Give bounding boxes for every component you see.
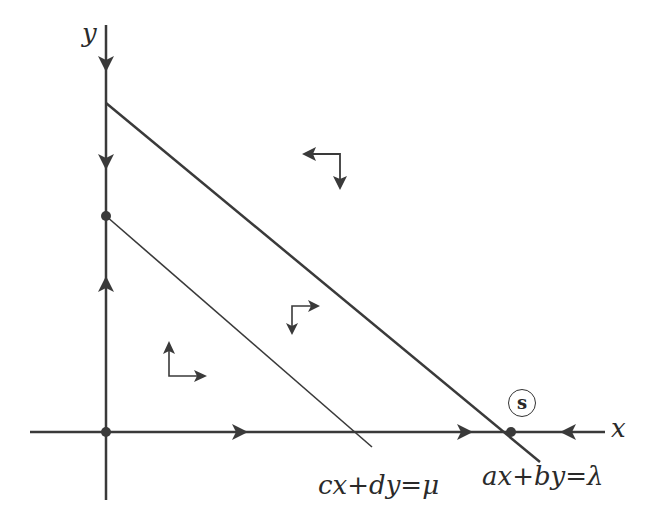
region-vector-middle	[286, 300, 320, 335]
outer-line-ax-by-lambda	[106, 103, 540, 462]
equilibrium-origin	[101, 427, 111, 437]
region-vector-lower	[163, 341, 207, 382]
y-axis-label: y	[82, 18, 97, 48]
equilibrium-s-label: s	[508, 389, 536, 417]
equilibrium-s	[506, 427, 516, 437]
x-axis-label: x	[611, 413, 626, 443]
inner-line-cx-dy-mu	[106, 216, 372, 447]
equilibrium-y-intercept	[101, 211, 111, 221]
region-vector-upper	[302, 147, 347, 190]
equation-outer-label: ax+by=λ	[482, 461, 604, 491]
equation-inner-label: cx+dy=μ	[318, 470, 439, 500]
phase-diagram	[0, 0, 650, 528]
